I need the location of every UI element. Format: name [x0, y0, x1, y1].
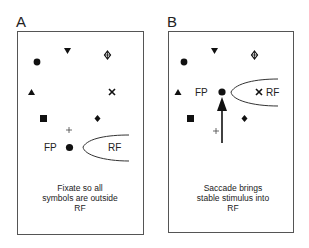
filled-diamond-icon: [242, 115, 248, 122]
filled-square-icon: [187, 115, 194, 122]
open-diamond-cross-icon: [252, 51, 258, 59]
receptive-field-curve: [83, 135, 129, 161]
fp-label: FP: [195, 87, 208, 98]
saccade-arrow: [217, 97, 227, 143]
figure: A FP RF Fixate so all symbols ar: [0, 0, 309, 248]
x-cross-icon: [109, 89, 115, 95]
plus-icon: [66, 127, 72, 133]
svg-text:stable stimulus into: stable stimulus into: [197, 193, 270, 203]
up-triangle-icon: [175, 89, 182, 95]
x-cross-icon: [256, 89, 262, 95]
svg-text:RF: RF: [227, 203, 238, 213]
fixation-point-icon: [66, 144, 73, 151]
panel-a-caption: Fixate so all symbols are outside RF: [42, 183, 118, 213]
fixation-point-icon: [218, 88, 225, 95]
panel-b-caption: Saccade brings stable stimulus into RF: [197, 183, 270, 213]
panel-b: B FP RF Saccad: [167, 13, 294, 233]
filled-circle-icon: [34, 59, 41, 66]
fp-label: FP: [44, 142, 57, 153]
svg-text:Saccade brings: Saccade brings: [204, 183, 263, 193]
filled-circle-icon: [181, 59, 188, 66]
down-triangle-icon: [64, 48, 71, 54]
up-triangle-icon: [28, 89, 35, 95]
panel-b-letter: B: [167, 13, 177, 30]
rf-label: RF: [108, 142, 121, 153]
svg-text:symbols are outside: symbols are outside: [42, 193, 118, 203]
down-triangle-icon: [211, 48, 218, 54]
svg-text:RF: RF: [74, 203, 85, 213]
svg-text:Fixate so all: Fixate so all: [57, 183, 102, 193]
rf-label: RF: [266, 87, 279, 98]
open-diamond-cross-icon: [105, 51, 111, 59]
panel-a-letter: A: [16, 13, 26, 30]
panel-a: A FP RF Fixate so all symbols ar: [16, 13, 144, 235]
filled-diamond-icon: [95, 115, 101, 122]
filled-square-icon: [40, 115, 47, 122]
plus-icon: [213, 128, 219, 134]
